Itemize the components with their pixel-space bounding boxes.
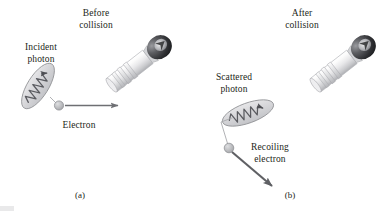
detector-device-a bbox=[102, 30, 177, 95]
diagram-graphics bbox=[0, 0, 387, 213]
recoil-velocity-arrow bbox=[232, 152, 272, 186]
compton-scattering-figure: Before collision Incident photon Electro… bbox=[0, 0, 387, 213]
incident-photon bbox=[15, 58, 60, 113]
detector-device-b bbox=[306, 30, 381, 95]
page-edge-artifact bbox=[0, 206, 14, 211]
scattered-photon bbox=[219, 94, 277, 131]
recoiling-electron-particle bbox=[224, 143, 234, 153]
scattered-photon-envelope bbox=[219, 94, 277, 131]
electron-particle bbox=[54, 101, 63, 110]
